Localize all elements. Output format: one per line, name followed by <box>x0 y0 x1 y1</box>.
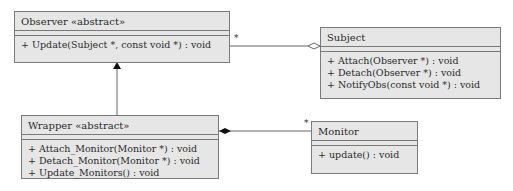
operations-section: + Attach(Observer *) : void + Detach(Obs… <box>321 52 500 94</box>
multiplicity-label: * <box>304 118 309 128</box>
operations-section: + Update(Subject *, const void *) : void <box>15 36 229 54</box>
operation: + update() : void <box>318 149 411 161</box>
operation: + Update_Monitors() : void <box>28 167 212 179</box>
monitor-class: Monitor + update() : void <box>311 121 418 174</box>
operations-section: + Attach_Monitor(Monitor *) : void + Det… <box>22 140 218 182</box>
multiplicity-label: * <box>234 33 239 43</box>
class-name: Wrapper «abstract» <box>22 116 218 135</box>
composition-diamond-icon <box>219 128 231 134</box>
operation: + Detach(Observer *) : void <box>327 67 494 79</box>
operations-section: + update() : void <box>312 146 417 164</box>
operation: + Detach_Monitor(Monitor *) : void <box>28 155 212 167</box>
class-name: Observer «abstract» <box>15 12 229 31</box>
operation: + Update(Subject *, const void *) : void <box>21 39 223 51</box>
subject-class: Subject + Attach(Observer *) : void + De… <box>320 27 501 99</box>
class-name: Subject <box>321 28 500 47</box>
inheritance-arrow-icon <box>113 62 121 69</box>
wrapper-class: Wrapper «abstract» + Attach_Monitor(Moni… <box>21 115 219 179</box>
class-name: Monitor <box>312 122 417 141</box>
aggregation-diamond-icon <box>308 43 320 49</box>
operation: + Attach(Observer *) : void <box>327 55 494 67</box>
observer-class: Observer «abstract» + Update(Subject *, … <box>14 11 230 63</box>
operation: + Attach_Monitor(Monitor *) : void <box>28 143 212 155</box>
operation: + NotifyObs(const void *) : void <box>327 79 494 91</box>
